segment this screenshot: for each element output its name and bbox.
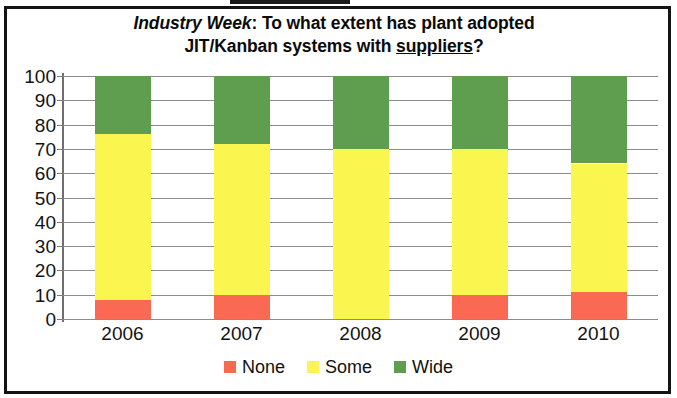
y-axis-tick-label: 20 — [10, 261, 56, 280]
y-axis-tick — [57, 319, 63, 320]
y-axis-tick-label: 40 — [10, 212, 56, 231]
plot-area — [63, 76, 658, 319]
chart-legend: NoneSomeWide — [0, 358, 677, 376]
y-axis-tick — [57, 198, 63, 199]
stacked-bar[interactable] — [452, 76, 508, 319]
bar-group[interactable] — [452, 76, 508, 319]
y-axis-tick-label: 60 — [10, 164, 56, 183]
y-axis-tick-label: 100 — [10, 67, 56, 86]
bar-segment-none[interactable] — [452, 295, 508, 319]
bar-segment-some[interactable] — [95, 134, 151, 299]
y-axis-tick-label: 70 — [10, 139, 56, 158]
legend-label: Some — [325, 358, 372, 376]
x-axis-tick-label: 2009 — [420, 324, 539, 343]
bar-group[interactable] — [333, 76, 389, 319]
chart-title: Industry Week: To what extent has plant … — [24, 12, 644, 58]
y-axis-tick — [57, 173, 63, 174]
scan-artifact — [230, 0, 350, 4]
legend-label: None — [242, 358, 285, 376]
chart-title-source: Industry Week — [133, 13, 251, 33]
legend-swatch-icon — [307, 361, 319, 373]
bar-segment-wide[interactable] — [95, 76, 151, 134]
bar-segment-wide[interactable] — [214, 76, 270, 144]
bar-segment-none[interactable] — [95, 300, 151, 319]
y-axis-tick — [57, 125, 63, 126]
chart-title-separator: : — [251, 13, 262, 33]
bar-segment-some[interactable] — [571, 164, 627, 293]
stacked-bar[interactable] — [571, 76, 627, 319]
x-axis-tick-label: 2008 — [301, 324, 420, 343]
legend-swatch-icon — [224, 361, 236, 373]
x-axis-tick-label: 2006 — [63, 324, 182, 343]
legend-swatch-icon — [394, 361, 406, 373]
bar-segment-none[interactable] — [571, 292, 627, 319]
bar-segment-wide[interactable] — [571, 76, 627, 163]
chart-title-line1: To what extent has plant adopted — [262, 13, 535, 33]
bar-group[interactable] — [571, 76, 627, 319]
stacked-bar[interactable] — [95, 76, 151, 319]
chart-figure: Industry Week: To what extent has plant … — [0, 0, 677, 398]
chart-title-line2-pre: JIT/Kanban systems with — [184, 36, 396, 56]
chart-title-line2-post: ? — [473, 36, 484, 56]
legend-item[interactable]: None — [224, 358, 285, 376]
y-axis-tick — [57, 295, 63, 296]
bar-segment-wide[interactable] — [452, 76, 508, 149]
x-axis-tick-label: 2010 — [539, 324, 658, 343]
legend-item[interactable]: Wide — [394, 358, 453, 376]
bar-segment-some[interactable] — [452, 149, 508, 295]
y-axis-tick-label: 80 — [10, 115, 56, 134]
bar-segment-some[interactable] — [333, 149, 389, 319]
y-axis-tick — [57, 100, 63, 101]
y-axis-tick — [57, 246, 63, 247]
bar-segment-none[interactable] — [214, 295, 270, 319]
bar-segment-wide[interactable] — [333, 76, 389, 149]
bar-group[interactable] — [95, 76, 151, 319]
legend-item[interactable]: Some — [307, 358, 372, 376]
y-axis-tick-label: 90 — [10, 91, 56, 110]
y-axis-tick — [57, 149, 63, 150]
x-axis-tick-label: 2007 — [182, 324, 301, 343]
y-axis-tick-label: 10 — [10, 285, 56, 304]
x-axis-tick-labels: 20062007200820092010 — [63, 324, 658, 352]
y-axis-tick — [57, 270, 63, 271]
y-axis-tick — [57, 222, 63, 223]
y-axis-tick-label: 30 — [10, 237, 56, 256]
y-axis-tick-label: 0 — [10, 310, 56, 329]
legend-label: Wide — [412, 358, 453, 376]
bar-group[interactable] — [214, 76, 270, 319]
y-axis-tick — [57, 76, 63, 77]
y-axis-tick-label: 50 — [10, 188, 56, 207]
y-axis-tick-labels: 1009080706050403020100 — [6, 76, 56, 319]
bar-segment-some[interactable] — [214, 144, 270, 295]
stacked-bar[interactable] — [333, 76, 389, 319]
gridline — [63, 319, 658, 320]
stacked-bar[interactable] — [214, 76, 270, 319]
chart-title-emphasis: suppliers — [396, 36, 473, 56]
